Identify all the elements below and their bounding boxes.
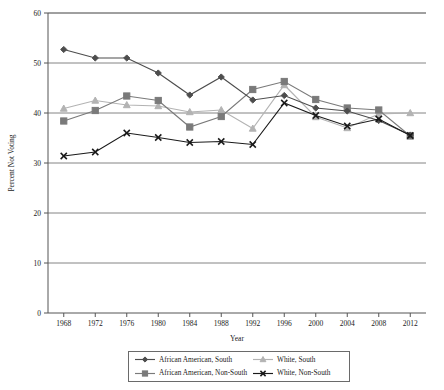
x-tick-label: 1992 bbox=[245, 319, 260, 328]
legend-swatch-diamond-icon bbox=[134, 355, 156, 364]
legend-item-white-non-south: White, Non-South bbox=[252, 369, 356, 378]
data-point-marker bbox=[313, 105, 319, 111]
data-point-marker bbox=[61, 118, 67, 124]
x-axis-title: Year bbox=[230, 334, 244, 343]
y-tick-label: 30 bbox=[34, 159, 42, 168]
data-point-marker bbox=[142, 357, 147, 362]
legend-label: African American, South bbox=[159, 356, 232, 364]
legend-label: White, Non-South bbox=[277, 369, 331, 377]
legend-swatch-cross-icon bbox=[252, 369, 274, 378]
legend-swatch-square-icon bbox=[134, 369, 156, 378]
data-point-marker bbox=[92, 97, 99, 103]
legend-swatch-triangle-icon bbox=[252, 355, 274, 364]
y-axis-title: Percent Not Voting bbox=[7, 134, 16, 191]
chart-container: 0102030405060196819721976198019841988199… bbox=[0, 0, 444, 390]
data-point-marker bbox=[281, 100, 287, 106]
data-point-marker bbox=[142, 371, 147, 376]
y-tick-label: 60 bbox=[34, 9, 42, 18]
chart-legend: African American, South White, South Afr… bbox=[128, 351, 350, 382]
series-african-american-south bbox=[61, 46, 414, 138]
x-tick-label: 2012 bbox=[403, 319, 418, 328]
x-tick-label: 2008 bbox=[371, 319, 386, 328]
data-point-marker bbox=[313, 96, 319, 102]
data-point-marker bbox=[92, 55, 98, 61]
data-point-marker bbox=[250, 86, 256, 92]
y-tick-label: 50 bbox=[34, 59, 42, 68]
x-tick-label: 2004 bbox=[340, 319, 355, 328]
y-tick-label: 0 bbox=[37, 309, 41, 318]
data-point-marker bbox=[376, 107, 382, 113]
axis-titles-group: YearPercent Not Voting bbox=[7, 134, 244, 343]
axes-group bbox=[44, 13, 426, 317]
gridlines-group bbox=[48, 13, 426, 263]
line-chart-plot: 0102030405060196819721976198019841988199… bbox=[0, 0, 444, 348]
legend-item-african-american-south: African American, South bbox=[134, 355, 252, 364]
x-tick-label: 1996 bbox=[277, 319, 292, 328]
y-tick-label: 10 bbox=[34, 259, 42, 268]
x-tick-label: 1968 bbox=[56, 319, 71, 328]
x-tick-label: 2000 bbox=[308, 319, 323, 328]
x-tick-label: 1988 bbox=[214, 319, 229, 328]
data-point-marker bbox=[124, 55, 130, 61]
x-tick-label: 1984 bbox=[182, 319, 197, 328]
x-tick-label: 1980 bbox=[151, 319, 166, 328]
legend-label: African American, Non-South bbox=[159, 369, 247, 377]
y-tick-label: 20 bbox=[34, 209, 42, 218]
legend-label: White, South bbox=[277, 356, 316, 364]
data-point-marker bbox=[61, 46, 67, 52]
data-point-marker bbox=[124, 93, 130, 99]
data-point-marker bbox=[281, 78, 287, 84]
y-tick-label: 40 bbox=[34, 109, 42, 118]
legend-item-african-american-non-south: African American, Non-South bbox=[134, 369, 252, 378]
x-tick-label: 1976 bbox=[119, 319, 134, 328]
x-tick-label: 1972 bbox=[88, 319, 103, 328]
data-point-marker bbox=[155, 97, 161, 103]
data-point-marker bbox=[187, 124, 193, 130]
data-point-marker bbox=[281, 92, 287, 98]
data-point-marker bbox=[218, 113, 224, 119]
legend-item-white-south: White, South bbox=[252, 355, 356, 364]
data-point-marker bbox=[92, 107, 98, 113]
series-african-american-non-south bbox=[61, 78, 414, 139]
